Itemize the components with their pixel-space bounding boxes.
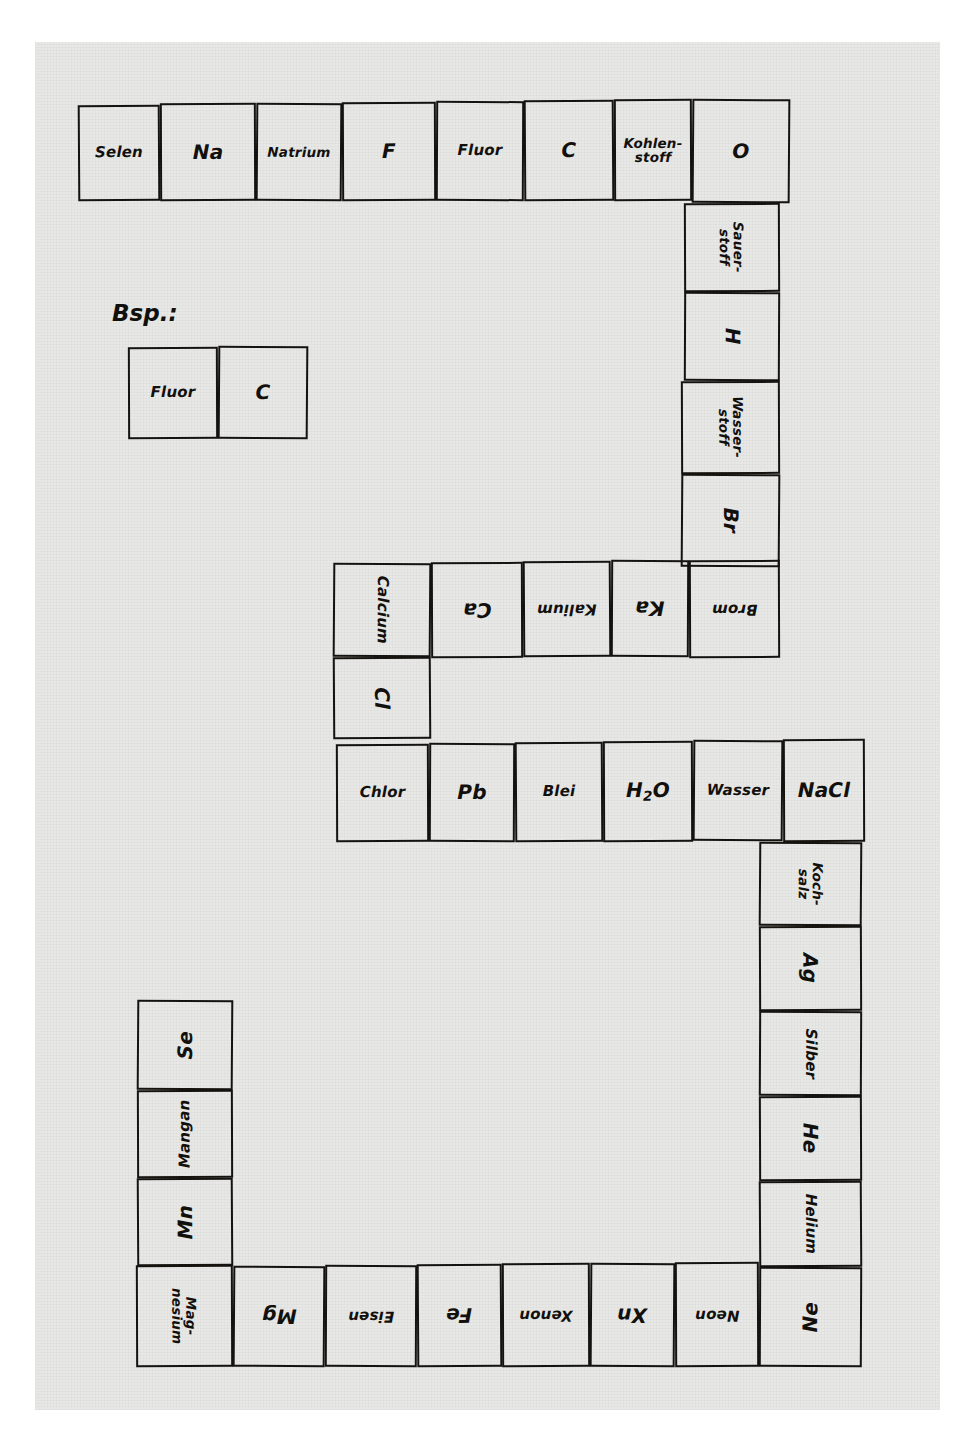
- tile-label: Wasser- stoff: [716, 396, 745, 458]
- tile-label: He: [800, 1123, 820, 1154]
- domino-tile[interactable]: NaCl: [783, 739, 865, 842]
- domino-tile[interactable]: Calcium: [333, 563, 432, 658]
- tile-label: Wasser: [707, 782, 769, 798]
- domino-tile[interactable]: Ne: [759, 1267, 862, 1367]
- tile-label: Pb: [457, 782, 486, 803]
- domino-tile[interactable]: Helium: [759, 1181, 863, 1268]
- domino-tile[interactable]: Chlor: [336, 744, 429, 842]
- tile-label: Fluor: [151, 385, 196, 401]
- tile-label: C: [255, 382, 270, 402]
- domino-tile[interactable]: Blei: [515, 742, 604, 843]
- domino-tile[interactable]: Fluor: [436, 101, 524, 201]
- domino-tile[interactable]: Mangan: [137, 1090, 233, 1178]
- tile-label: Selen: [95, 145, 143, 161]
- tile-label: Natrium: [267, 145, 330, 160]
- domino-tile[interactable]: Br: [681, 474, 781, 568]
- tile-label: O: [732, 141, 749, 162]
- tile-label: Br: [720, 508, 741, 534]
- tile-label: Ag: [800, 953, 820, 983]
- domino-tile[interactable]: H2O: [603, 741, 693, 842]
- domino-tile[interactable]: Kohlen- stoff: [614, 99, 692, 201]
- tile-label: Mn: [175, 1205, 196, 1240]
- tile-label: Mangan: [177, 1100, 193, 1169]
- tile-label-formula: H2O: [626, 780, 670, 804]
- tile-label: Ka: [635, 598, 664, 619]
- domino-tile[interactable]: Koch- salz: [759, 842, 863, 927]
- tile-label: Ca: [463, 600, 492, 620]
- tile-label: Chlor: [360, 785, 406, 801]
- domino-tile[interactable]: H: [684, 292, 780, 381]
- domino-tile[interactable]: Cl: [333, 657, 431, 740]
- tile-label: Helium: [802, 1194, 818, 1255]
- tile-label: Se: [175, 1031, 196, 1060]
- tile-label: Sauer- stoff: [718, 222, 747, 273]
- tile-label: Ne: [800, 1302, 821, 1333]
- domino-tile[interactable]: O: [692, 99, 791, 204]
- tile-label: Xenon: [519, 1307, 573, 1323]
- tile-label: Koch- salz: [796, 862, 825, 905]
- domino-tile[interactable]: Sauer- stoff: [684, 203, 780, 292]
- tile-label: Eisen: [348, 1308, 394, 1324]
- tile-label: Fluor: [458, 143, 503, 159]
- tile-label: Brom: [712, 601, 758, 617]
- domino-tile[interactable]: Ag: [759, 926, 862, 1011]
- domino-tile[interactable]: Natrium: [256, 103, 343, 202]
- tile-label: Mg: [262, 1306, 297, 1327]
- domino-tile[interactable]: F: [342, 102, 436, 201]
- example-domino-tile[interactable]: Fluor: [128, 347, 218, 439]
- example-domino-tile[interactable]: C: [218, 346, 309, 440]
- tile-label: Cl: [372, 687, 393, 709]
- tile-label: NaCl: [798, 780, 851, 801]
- example-label: Bsp.:: [112, 300, 178, 326]
- tile-label: Xn: [617, 1305, 647, 1326]
- tile-label: F: [382, 141, 396, 161]
- domino-tile[interactable]: Fe: [417, 1264, 503, 1368]
- domino-tile[interactable]: Ka: [611, 560, 689, 657]
- tile-label: C: [561, 140, 576, 160]
- domino-tile[interactable]: Eisen: [325, 1265, 417, 1367]
- tile-label: Blei: [543, 784, 576, 800]
- domino-tile[interactable]: Wasser: [693, 740, 784, 842]
- domino-tile[interactable]: Mn: [137, 1178, 234, 1267]
- tile-label: Mag- nesium: [170, 1288, 199, 1344]
- domino-tile[interactable]: Mg: [233, 1266, 326, 1368]
- domino-tile[interactable]: Selen: [78, 105, 161, 201]
- domino-worksheet: Selen Na Natrium F Fluor C Kohlen- stoff…: [0, 0, 975, 1455]
- tile-label: Neon: [695, 1307, 740, 1323]
- domino-tile[interactable]: Xn: [590, 1263, 676, 1368]
- tile-label: Kalium: [537, 601, 597, 617]
- domino-tile[interactable]: He: [759, 1096, 862, 1181]
- domino-tile[interactable]: Wasser- stoff: [681, 381, 780, 474]
- tile-label: Calcium: [374, 576, 390, 644]
- domino-tile[interactable]: Ca: [431, 562, 523, 658]
- tile-label: Kohlen- stoff: [623, 136, 682, 165]
- domino-tile[interactable]: Mag- nesium: [136, 1265, 233, 1367]
- domino-tile[interactable]: Xenon: [502, 1263, 590, 1367]
- domino-tile[interactable]: C: [524, 100, 615, 202]
- domino-tile[interactable]: Brom: [689, 560, 780, 658]
- domino-tile[interactable]: Pb: [429, 743, 515, 842]
- domino-tile[interactable]: Se: [137, 1000, 234, 1091]
- domino-tile[interactable]: Kalium: [523, 561, 612, 658]
- domino-tile[interactable]: Na: [160, 103, 256, 201]
- tile-label: H: [722, 328, 742, 345]
- tile-label: Silber: [803, 1028, 819, 1079]
- domino-tile[interactable]: Neon: [675, 1262, 759, 1367]
- tile-label: Na: [193, 142, 224, 162]
- domino-tile[interactable]: Silber: [759, 1011, 862, 1096]
- tile-label: Fe: [446, 1305, 472, 1326]
